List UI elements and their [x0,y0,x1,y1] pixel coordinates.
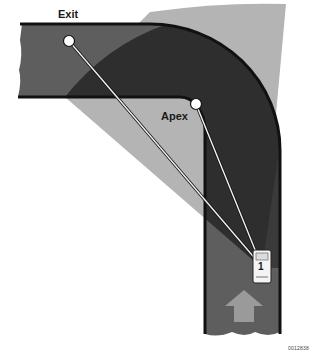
figure-code: 0012838 [288,345,309,351]
apex-label: Apex [161,110,188,122]
exit-label: Exit [58,8,78,20]
car-number: 1 [258,261,264,272]
cornering-diagram [0,0,309,356]
exit-marker [64,36,75,47]
apex-marker [191,99,202,110]
